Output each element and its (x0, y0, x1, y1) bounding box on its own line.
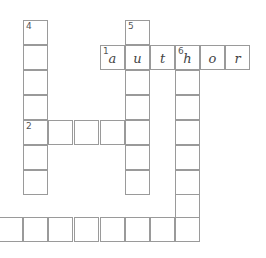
crossword-cell[interactable] (48, 217, 73, 242)
cell-letter: o (201, 51, 224, 66)
crossword-cell[interactable] (175, 95, 200, 120)
crossword-cell[interactable] (100, 120, 125, 145)
crossword-cell[interactable]: r (225, 45, 250, 70)
crossword-cell[interactable] (100, 217, 125, 242)
cell-letter: u (126, 51, 149, 66)
crossword-cell[interactable] (23, 145, 48, 170)
crossword-cell[interactable] (175, 217, 200, 242)
crossword-cell[interactable] (175, 194, 200, 219)
crossword-cell[interactable] (125, 145, 150, 170)
crossword-cell[interactable] (23, 170, 48, 195)
crossword-cell[interactable] (175, 145, 200, 170)
cell-letter: t (151, 51, 174, 66)
crossword-cell[interactable]: t (150, 45, 175, 70)
crossword-cell[interactable] (125, 217, 150, 242)
crossword-cell[interactable] (125, 170, 150, 195)
crossword-cell[interactable]: u (125, 45, 150, 70)
crossword-cell[interactable] (175, 170, 200, 195)
cell-letter: a (101, 51, 124, 66)
crossword-cell[interactable] (23, 70, 48, 95)
crossword-cell[interactable] (0, 217, 23, 242)
crossword-cell[interactable]: 4 (23, 20, 48, 45)
crossword-cell[interactable] (150, 217, 175, 242)
crossword-cell[interactable] (175, 70, 200, 95)
crossword-cell[interactable] (125, 70, 150, 95)
clue-number: 2 (26, 121, 32, 131)
cell-letter: r (226, 51, 249, 66)
crossword-cell[interactable] (23, 95, 48, 120)
crossword-cell[interactable] (23, 45, 48, 70)
crossword-cell[interactable] (74, 217, 99, 242)
crossword-grid: 425u1at6hor (0, 0, 266, 258)
crossword-cell[interactable]: 1a (100, 45, 125, 70)
clue-number: 4 (26, 21, 32, 31)
crossword-cell[interactable] (125, 95, 150, 120)
crossword-cell[interactable]: 2 (23, 120, 48, 145)
crossword-cell[interactable] (175, 120, 200, 145)
crossword-cell[interactable] (48, 120, 73, 145)
clue-number: 5 (128, 21, 134, 31)
cell-letter: h (176, 51, 199, 66)
crossword-cell[interactable]: 6h (175, 45, 200, 70)
crossword-cell[interactable] (74, 120, 99, 145)
crossword-cell[interactable]: o (200, 45, 225, 70)
crossword-cell[interactable]: 5 (125, 20, 150, 45)
crossword-cell[interactable] (23, 217, 48, 242)
crossword-cell[interactable] (125, 120, 150, 145)
